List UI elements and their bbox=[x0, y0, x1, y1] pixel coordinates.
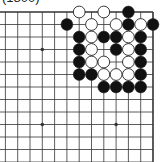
white-stone-icon bbox=[110, 19, 122, 31]
black-stone-icon bbox=[147, 19, 159, 31]
white-stone-icon bbox=[122, 69, 134, 81]
black-stone-icon bbox=[122, 81, 134, 93]
black-stone-icon bbox=[135, 69, 147, 81]
black-stone-icon bbox=[61, 19, 73, 31]
stones-layer bbox=[61, 6, 159, 93]
white-stone-icon bbox=[86, 31, 98, 43]
white-stone-icon bbox=[98, 69, 110, 81]
black-stone-icon bbox=[73, 69, 85, 81]
black-stone-icon bbox=[86, 69, 98, 81]
white-stone-icon bbox=[98, 56, 110, 68]
white-stone-icon bbox=[73, 6, 85, 18]
white-stone-icon bbox=[86, 44, 98, 56]
white-stone-icon bbox=[86, 56, 98, 68]
white-stone-icon bbox=[135, 19, 147, 31]
black-stone-icon bbox=[73, 56, 85, 68]
black-stone-icon bbox=[73, 31, 85, 43]
black-stone-icon bbox=[122, 19, 134, 31]
black-stone-icon bbox=[135, 56, 147, 68]
white-stone-icon bbox=[122, 44, 134, 56]
black-stone-icon bbox=[135, 81, 147, 93]
white-stone-icon bbox=[122, 56, 134, 68]
black-stone-icon bbox=[110, 44, 122, 56]
black-stone-icon bbox=[98, 31, 110, 43]
black-stone-icon bbox=[135, 44, 147, 56]
star-point-icon bbox=[41, 48, 45, 52]
go-board bbox=[0, 0, 164, 162]
black-stone-icon bbox=[98, 81, 110, 93]
white-stone-icon bbox=[110, 69, 122, 81]
black-stone-icon bbox=[135, 31, 147, 43]
star-point-icon bbox=[114, 123, 118, 127]
black-stone-icon bbox=[73, 44, 85, 56]
black-stone-icon bbox=[110, 31, 122, 43]
black-stone-icon bbox=[122, 6, 134, 18]
white-stone-icon bbox=[86, 19, 98, 31]
star-point-icon bbox=[41, 123, 45, 127]
white-stone-icon bbox=[122, 31, 134, 43]
white-stone-icon bbox=[98, 6, 110, 18]
black-stone-icon bbox=[110, 81, 122, 93]
